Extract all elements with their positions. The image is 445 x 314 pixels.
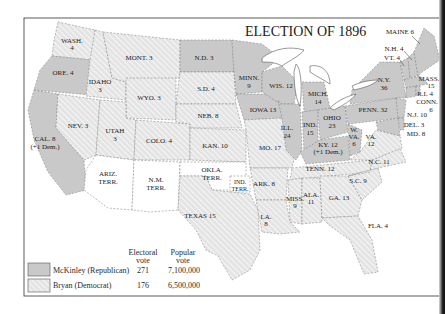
label-sc: S.C. 9 (349, 177, 367, 185)
label-utah: UTAH (106, 127, 125, 135)
label-iowa: IOWA 13 (250, 106, 277, 114)
legend-swatch-republican (28, 263, 50, 276)
label-nm-terr: TERR. (146, 184, 166, 192)
label-wis: WIS. 12 (269, 82, 293, 90)
label-wva-ev: 6 (352, 140, 356, 148)
label-neb: NEB. 8 (198, 112, 220, 120)
label-ny-ev: 36 (381, 84, 389, 92)
label-va-ev: 12 (368, 140, 376, 148)
state-conn (406, 86, 416, 98)
legend-party-bryan: Bryan (Democrat) (53, 281, 112, 290)
label-cal: CAL. 8 (35, 135, 57, 143)
legend-header-popular-2: vote (176, 256, 190, 265)
label-wash-ev: 4 (70, 44, 74, 52)
label-tenn: TENN. 12 (305, 165, 335, 173)
label-nm: N.M. (149, 176, 164, 184)
label-nh: N.H. 4 (385, 45, 404, 53)
label-mo: MO. 17 (259, 144, 281, 152)
legend-swatch-democrat (28, 279, 50, 292)
label-ill: ILL. (281, 124, 294, 132)
election-map: ELECTION OF 1896 WASH. 4 ORE. 4 CAL. 8 (… (0, 0, 445, 314)
label-ore: ORE. 4 (53, 69, 75, 77)
label-ala-ev: 11 (308, 198, 315, 206)
label-minn-ev: 9 (247, 82, 251, 90)
label-ind-terr: IND. (234, 179, 247, 185)
label-utah-ev: 3 (113, 135, 117, 143)
label-maine: MAINE 6 (386, 28, 415, 36)
page-binding-shadow (439, 0, 445, 314)
label-conn: CONN. (416, 98, 438, 106)
legend-party-mckinley: McKinley (Republican) (53, 266, 130, 275)
label-vt: VT. 4 (384, 54, 400, 62)
label-mont: MONT. 3 (125, 54, 153, 62)
label-colo: COLO. 4 (146, 137, 173, 145)
map-title: ELECTION OF 1896 (245, 24, 366, 39)
label-wyo: WYO. 3 (137, 94, 161, 102)
label-sd: S.D. 4 (197, 85, 215, 93)
label-mass-ev: 15 (428, 82, 436, 90)
legend-header-electoral-2: vote (136, 256, 150, 265)
label-mich-ev: 14 (315, 98, 323, 106)
label-ny: N.Y. (378, 76, 391, 84)
label-ga: GA. 13 (329, 194, 350, 202)
label-ind-terr-2: TERR. (232, 186, 249, 192)
label-ky-note: (+1 Dem.) (313, 148, 343, 156)
label-miss-ev: 9 (293, 202, 297, 210)
label-texas: TEXAS 15 (184, 212, 216, 220)
label-nj: N.J. 10 (407, 111, 428, 119)
label-nc: N.C. 11 (368, 158, 390, 166)
label-ind: IND. (303, 121, 317, 129)
label-ariz: ARIZ. (99, 170, 117, 178)
label-nev: NEV. 3 (68, 122, 89, 130)
label-md: MD. 8 (407, 130, 426, 138)
label-la-ev: 8 (264, 220, 268, 228)
label-conn-ev: 6 (429, 106, 433, 114)
label-cal-note: (+1 Dem.) (30, 143, 60, 151)
label-idaho-ev: 3 (98, 86, 102, 94)
label-ark: ARK. 8 (253, 180, 275, 188)
label-ohio-ev: 23 (329, 122, 337, 130)
label-okla: OKLA. (201, 166, 222, 174)
label-fla: FLA. 4 (368, 222, 389, 230)
label-minn: MINN. (239, 74, 260, 82)
label-del: DEL. 3 (404, 121, 425, 129)
legend-popular-mckinley: 7,100,000 (168, 266, 200, 275)
label-okla-terr: TERR. (202, 174, 222, 182)
label-ohio: OHIO (323, 114, 341, 122)
label-mich: MICH. (308, 90, 328, 98)
legend-electoral-mckinley: 271 (137, 266, 149, 275)
label-kan: KAN. 10 (202, 142, 228, 150)
legend-electoral-bryan: 176 (137, 281, 149, 290)
label-ill-ev: 24 (284, 132, 292, 140)
label-ind-ev: 15 (307, 129, 315, 137)
label-penn: PENN. 32 (359, 106, 388, 114)
legend-popular-bryan: 6,500,000 (168, 281, 200, 290)
label-ariz-terr: TERR. (98, 178, 118, 186)
label-ri: R.I. 4 (417, 90, 433, 98)
label-idaho: IDAHO (89, 78, 112, 86)
label-nd: N.D. 3 (195, 54, 214, 62)
